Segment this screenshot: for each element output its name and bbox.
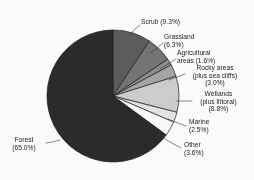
slice-label-grassland-line2: (6.3%) [164,41,195,49]
slice-label-rocky-line3: (3.0%) [176,79,254,87]
slice-label-scrub: Scrub (9.3%) [141,18,180,26]
slice-label-forest-line1: Forest [2,136,46,144]
slice-label-rocky-line1: Rocky areas [176,64,254,72]
slice-label-wetlands-line2: (plus littoral) [183,98,254,106]
leader-line-forest [46,140,60,143]
slice-label-other: Other (3.6%) [184,141,204,156]
slice-label-rocky: Rocky areas (plus sea cliffs) (3.0%) [176,64,254,87]
slice-label-marine-line2: (2.5%) [189,126,209,134]
slice-label-rocky-line2: (plus sea cliffs) [176,72,254,80]
slice-label-agricultural-line1: Agricultural [177,49,215,57]
slice-label-grassland-line1: Grassland [164,33,195,41]
slice-label-marine-line1: Marine [189,118,209,126]
slice-label-agricultural: Agricultural areas (1.6%) [177,49,215,64]
pie-slices: Scrub (9.3%)Grassland (6.3%)Agricultural… [47,30,179,162]
figure-canvas: Scrub (9.3%)Grassland (6.3%)Agricultural… [0,0,254,180]
slice-label-forest: Forest (65.0%) [2,136,46,151]
slice-label-grassland: Grassland (6.3%) [164,33,195,48]
slice-label-other-line1: Other [184,141,204,149]
slice-label-wetlands-line3: (8.8%) [183,105,254,113]
slice-label-scrub-line1: Scrub (9.3%) [141,18,180,26]
slice-label-wetlands-line1: Wetlands [183,90,254,98]
slice-label-other-line2: (3.6%) [184,149,204,157]
slice-label-marine: Marine (2.5%) [189,118,209,133]
slice-label-forest-line2: (65.0%) [2,144,46,152]
slice-label-wetlands: Wetlands (plus littoral) (8.8%) [183,90,254,113]
